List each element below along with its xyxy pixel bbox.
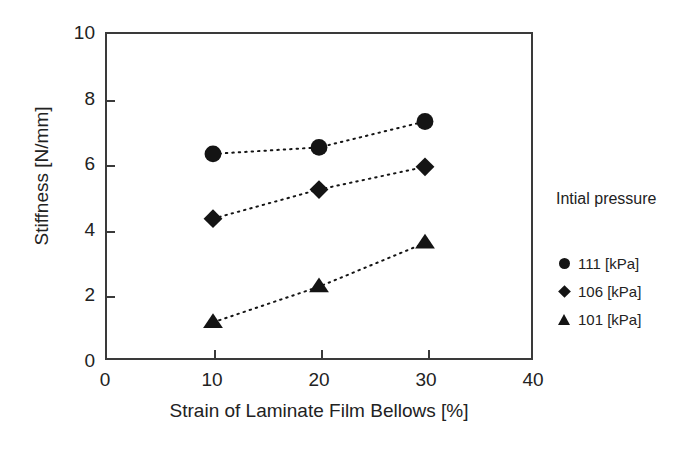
y-tick-label: 10 — [55, 23, 95, 42]
legend-items: 111 [kPa]106 [kPa]101 [kPa] — [556, 250, 696, 332]
y-tick-label: 2 — [55, 285, 95, 304]
data-point-marker — [309, 278, 329, 293]
data-point-marker — [310, 180, 329, 199]
circle-marker-icon — [556, 255, 572, 271]
x-tick-label: 10 — [182, 370, 242, 389]
data-point-marker — [205, 145, 222, 162]
legend-item: 111 [kPa] — [556, 250, 696, 276]
legend-label: 106 [kPa] — [578, 283, 641, 300]
data-series — [204, 157, 435, 228]
legend: Intial pressure 111 [kPa]106 [kPa]101 [k… — [556, 190, 696, 334]
legend-item: 106 [kPa] — [556, 278, 696, 304]
y-axis-title: Stiffness [N/mm] — [31, 26, 53, 326]
x-axis-title: Strain of Laminate Film Bellows [%] — [105, 400, 533, 422]
x-tick-label: 20 — [289, 370, 349, 389]
plot-area — [105, 32, 533, 360]
x-tick-label: 30 — [396, 370, 456, 389]
data-series — [203, 234, 435, 328]
y-tick-label: 0 — [55, 351, 95, 370]
y-tick-label: 8 — [55, 88, 95, 107]
data-series — [205, 113, 434, 162]
chart-figure: 0246810 010203040 Stiffness [N/mm] Strai… — [0, 0, 698, 450]
x-axis-tick-labels: 010203040 — [105, 370, 533, 394]
data-series-layer — [107, 34, 531, 358]
data-point-marker — [416, 157, 435, 176]
data-point-marker — [415, 234, 435, 249]
legend-title: Intial pressure — [556, 190, 696, 208]
y-tick-label: 6 — [55, 154, 95, 173]
data-point-marker — [311, 139, 328, 156]
y-axis-tick-labels: 0246810 — [50, 32, 95, 360]
diamond-marker-icon — [556, 283, 572, 299]
x-tick-label: 0 — [75, 370, 135, 389]
legend-label: 101 [kPa] — [578, 311, 641, 328]
legend-label: 111 [kPa] — [578, 255, 639, 272]
data-point-marker — [204, 209, 223, 228]
triangle-marker-icon — [556, 311, 572, 327]
data-point-marker — [417, 113, 434, 130]
legend-item: 101 [kPa] — [556, 306, 696, 332]
y-tick-label: 4 — [55, 219, 95, 238]
x-tick-label: 40 — [503, 370, 563, 389]
